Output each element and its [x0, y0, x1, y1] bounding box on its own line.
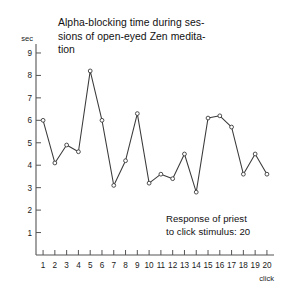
- data-point-marker: [77, 150, 81, 154]
- data-point-marker: [147, 181, 151, 185]
- x-tick-label: 4: [76, 261, 81, 270]
- data-point-marker: [265, 172, 269, 176]
- data-point-marker: [135, 112, 139, 116]
- x-tick-label: 17: [227, 261, 237, 270]
- x-tick-label: 5: [88, 261, 93, 270]
- x-tick-label: 19: [251, 261, 261, 270]
- data-point-marker: [124, 159, 128, 163]
- x-tick-label: 16: [215, 261, 225, 270]
- y-tick-label: 3: [27, 184, 32, 193]
- y-tick-label: 1: [27, 229, 32, 238]
- data-point-marker: [194, 190, 198, 194]
- y-tick-label: 2: [27, 206, 32, 215]
- data-point-marker: [206, 116, 210, 120]
- x-tick-label: 20: [262, 261, 272, 270]
- y-tick-label: 9: [27, 49, 32, 58]
- axes: [36, 44, 274, 255]
- data-point-marker: [171, 177, 175, 181]
- x-tick-label: 15: [203, 261, 213, 270]
- data-point-marker: [112, 184, 116, 188]
- y-axis-ticks: 123456789: [27, 49, 41, 238]
- x-tick-label: 13: [180, 261, 190, 270]
- x-tick-label: 7: [111, 261, 116, 270]
- data-point-marker: [65, 143, 69, 147]
- data-point-marker: [88, 69, 92, 73]
- x-axis-ticks: 1234567891011121314151617181920: [41, 250, 272, 270]
- data-point-marker: [241, 172, 245, 176]
- x-tick-label: 18: [239, 261, 249, 270]
- chart-container: Alpha-blocking time during ses- sions of…: [0, 0, 284, 299]
- x-tick-label: 6: [100, 261, 105, 270]
- x-tick-label: 8: [123, 261, 128, 270]
- x-axis-unit-label: click: [259, 274, 274, 283]
- y-axis-unit-label: sec: [21, 34, 33, 43]
- data-point-marker: [53, 161, 57, 165]
- y-tick-label: 5: [27, 139, 32, 148]
- x-tick-label: 12: [168, 261, 178, 270]
- line-chart-plot: 123456789 123456789101112131415161718192…: [0, 0, 284, 299]
- data-point-marker: [253, 152, 257, 156]
- data-point-marker: [100, 118, 104, 122]
- data-series-line: [43, 71, 267, 192]
- y-tick-label: 8: [27, 71, 32, 80]
- x-tick-label: 10: [145, 261, 155, 270]
- data-point-marker: [230, 125, 234, 129]
- x-tick-label: 2: [53, 261, 58, 270]
- x-tick-label: 3: [64, 261, 69, 270]
- data-point-markers: [41, 69, 269, 194]
- x-tick-label: 9: [135, 261, 140, 270]
- data-point-marker: [218, 114, 222, 118]
- y-tick-label: 4: [27, 161, 32, 170]
- y-tick-label: 7: [27, 94, 32, 103]
- x-tick-label: 1: [41, 261, 46, 270]
- x-tick-label: 11: [157, 261, 166, 270]
- data-point-marker: [159, 172, 163, 176]
- data-point-marker: [41, 118, 45, 122]
- x-tick-label: 14: [192, 261, 202, 270]
- data-point-marker: [183, 152, 187, 156]
- y-tick-label: 6: [27, 116, 32, 125]
